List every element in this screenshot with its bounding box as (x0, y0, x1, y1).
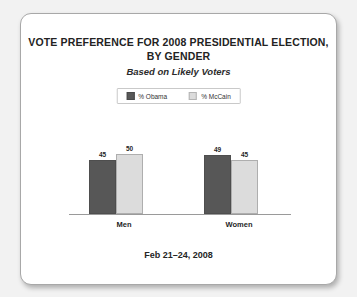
footer-date: Feb 21–24, 2008 (21, 250, 336, 260)
page-title-line2: BY GENDER (21, 50, 336, 64)
chart-subtitle: Based on Likely Voters (21, 66, 336, 77)
bar-wrap-women-mccain: 45 (231, 151, 258, 214)
bar-value-men-obama: 45 (99, 151, 106, 158)
bar-women-obama (204, 155, 231, 214)
plot-area: 45 50 49 45 (69, 132, 291, 214)
title-block: VOTE PREFERENCE FOR 2008 PRESIDENTIAL EL… (21, 36, 336, 77)
bar-wrap-men-mccain: 50 (116, 145, 143, 214)
bar-men-mccain (116, 154, 143, 214)
bar-men-obama (89, 160, 116, 214)
legend-swatch-obama-icon (126, 92, 134, 100)
chart-legend: % Obama % McCain (116, 88, 241, 104)
bar-wrap-men-obama: 45 (89, 151, 116, 214)
bar-wrap-women-obama: 49 (204, 146, 231, 214)
page-title: VOTE PREFERENCE FOR 2008 PRESIDENTIAL EL… (21, 36, 336, 50)
bar-value-women-obama: 49 (214, 146, 221, 153)
bar-group-women: 49 45 (204, 146, 258, 214)
chart-card: VOTE PREFERENCE FOR 2008 PRESIDENTIAL EL… (20, 13, 337, 285)
axis-baseline (69, 214, 291, 215)
legend-item-mccain: % McCain (189, 92, 231, 100)
legend-label-obama: % Obama (138, 93, 167, 100)
bar-women-mccain (231, 160, 258, 214)
bar-value-women-mccain: 45 (241, 151, 248, 158)
legend-item-obama: % Obama (126, 92, 167, 100)
bar-group-men: 45 50 (89, 145, 143, 214)
legend-swatch-mccain-icon (189, 92, 197, 100)
legend-label-mccain: % McCain (201, 93, 231, 100)
category-label-men: Men (89, 220, 159, 229)
category-label-women: Women (204, 220, 274, 229)
bar-value-men-mccain: 50 (126, 145, 133, 152)
